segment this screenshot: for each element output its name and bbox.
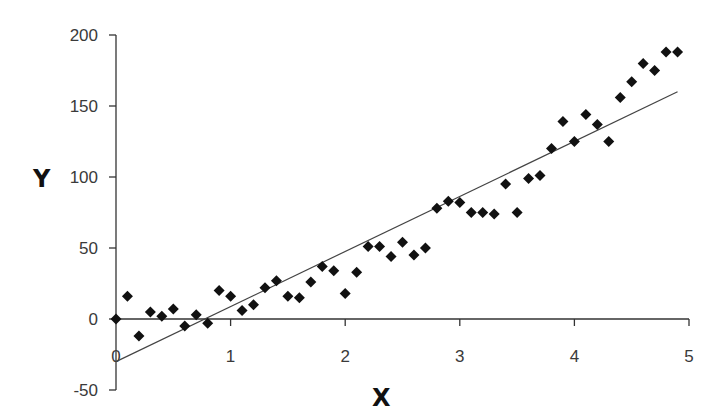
diamond-marker	[122, 291, 133, 302]
diamond-marker	[615, 92, 626, 103]
x-tick-label: 5	[684, 347, 693, 366]
diamond-marker	[248, 299, 259, 310]
diamond-marker	[489, 208, 500, 219]
y-axis-title: Y	[32, 165, 51, 193]
x-tick-label: 3	[455, 347, 464, 366]
diamond-marker	[638, 58, 649, 69]
y-tick-label: 0	[89, 310, 98, 329]
diamond-marker	[386, 251, 397, 262]
diamond-marker	[305, 277, 316, 288]
diamond-marker	[271, 275, 282, 286]
y-tick-label: 200	[70, 26, 98, 45]
diamond-marker	[214, 285, 225, 296]
diamond-marker	[374, 241, 385, 252]
diamond-marker	[512, 207, 523, 218]
diamond-marker	[672, 47, 683, 58]
y-tick-label: 100	[70, 168, 98, 187]
diamond-marker	[408, 250, 419, 261]
y-tick-label: -50	[73, 381, 98, 400]
diamond-marker	[443, 196, 454, 207]
diamond-marker	[111, 314, 122, 325]
diamond-marker	[661, 47, 672, 58]
scatter-chart: -50050100150200 012345 Y X	[0, 0, 717, 420]
x-tick-label: 0	[111, 347, 120, 366]
diamond-marker	[500, 179, 511, 190]
diamond-marker	[317, 261, 328, 272]
diamond-marker	[328, 265, 339, 276]
fit-line-path	[116, 92, 678, 362]
diamond-marker	[351, 267, 362, 278]
regression-line	[116, 92, 678, 362]
diamond-marker	[397, 237, 408, 248]
x-tick-label: 4	[570, 347, 579, 366]
diamond-marker	[294, 292, 305, 303]
diamond-marker	[156, 311, 167, 322]
diamond-marker	[133, 331, 144, 342]
diamond-marker	[546, 143, 557, 154]
y-axis: -50050100150200	[70, 26, 116, 400]
x-axis-title: X	[372, 384, 391, 412]
diamond-marker	[626, 76, 637, 87]
diamond-marker	[523, 173, 534, 184]
diamond-marker	[225, 291, 236, 302]
diamond-marker	[603, 136, 614, 147]
diamond-marker	[145, 306, 156, 317]
y-tick-label: 150	[70, 97, 98, 116]
diamond-marker	[420, 243, 431, 254]
x-tick-label: 2	[340, 347, 349, 366]
data-points	[111, 47, 684, 342]
diamond-marker	[237, 305, 248, 316]
diamond-marker	[569, 136, 580, 147]
diamond-marker	[466, 207, 477, 218]
x-tick-label: 1	[226, 347, 235, 366]
diamond-marker	[477, 207, 488, 218]
diamond-marker	[557, 116, 568, 127]
diamond-marker	[340, 288, 351, 299]
diamond-marker	[431, 203, 442, 214]
diamond-marker	[282, 291, 293, 302]
diamond-marker	[649, 65, 660, 76]
diamond-marker	[580, 109, 591, 120]
diamond-marker	[535, 170, 546, 181]
y-tick-label: 50	[79, 239, 98, 258]
x-axis: 012345	[111, 319, 693, 366]
diamond-marker	[168, 304, 179, 315]
